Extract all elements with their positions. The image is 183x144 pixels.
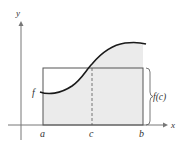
y-axis-arrow-icon <box>19 21 24 26</box>
x-axis-label: x <box>170 120 175 130</box>
x-axis-arrow-icon <box>163 123 168 128</box>
y-axis-label: y <box>15 8 20 18</box>
b-label: b <box>139 128 144 139</box>
mvt-integral-diagram: x y f a c b f(c) <box>0 0 183 144</box>
a-label: a <box>40 128 45 139</box>
area-under-curve <box>43 42 143 125</box>
fc-label: f(c) <box>153 92 166 103</box>
function-label: f <box>32 87 36 98</box>
fc-brace <box>146 68 153 125</box>
c-label: c <box>89 128 94 139</box>
